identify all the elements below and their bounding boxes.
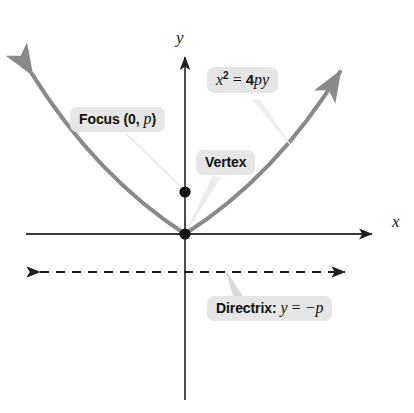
directrix-leader-line <box>226 271 243 297</box>
parabola-curve <box>32 74 185 234</box>
callout-directrix-label: Directrix: <box>216 300 276 316</box>
equation-leader-line <box>253 100 292 147</box>
callout-directrix-eq-variable: y <box>280 299 287 316</box>
focus-point <box>179 186 190 197</box>
x-axis-label: x <box>392 212 400 232</box>
focus-leader-line <box>126 134 184 190</box>
callout-equation: x2 = 4py <box>207 67 278 93</box>
callout-focus-coords-open: (0, <box>124 111 140 127</box>
callout-directrix-eq-operator: = <box>292 299 301 316</box>
callout-vertex: Vertex <box>196 150 255 175</box>
callout-directrix-eq-value: −p <box>305 299 324 316</box>
callout-focus-coords-var: p <box>144 110 152 127</box>
callout-focus-coords-close: ) <box>152 111 157 127</box>
equation-operator: = <box>233 71 242 88</box>
equation-rhs-variables: py <box>254 71 269 88</box>
equation-coefficient: 4 <box>246 71 254 88</box>
callout-vertex-label: Vertex <box>205 154 246 170</box>
callout-directrix: Directrix: y = −p <box>207 296 332 321</box>
callout-focus: Focus (0, p) <box>70 107 165 132</box>
vertex-point <box>179 228 190 239</box>
callout-focus-label: Focus <box>79 111 120 127</box>
parabola-diagram <box>0 0 414 413</box>
y-axis-label: y <box>176 28 184 48</box>
